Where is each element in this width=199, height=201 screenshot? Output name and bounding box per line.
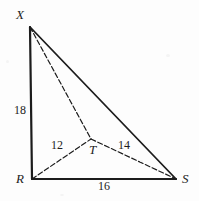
vertex-label-S: S	[182, 172, 189, 185]
vertex-label-X: X	[16, 8, 24, 21]
geometry-canvas	[0, 0, 199, 201]
edge-TS	[91, 139, 176, 179]
edge-XR	[30, 27, 32, 179]
length-label-XR: 18	[14, 104, 26, 116]
length-label-TS: 14	[118, 139, 130, 151]
edge-XT	[30, 27, 91, 139]
vertex-label-R: R	[16, 172, 24, 185]
edge-layer	[30, 27, 176, 179]
geometry-figure: X R S T 18 12 14 16	[0, 0, 199, 201]
length-label-RS: 16	[98, 180, 110, 192]
vertex-label-T: T	[89, 143, 96, 156]
edge-XS	[30, 27, 176, 179]
length-label-RT: 12	[51, 139, 63, 151]
